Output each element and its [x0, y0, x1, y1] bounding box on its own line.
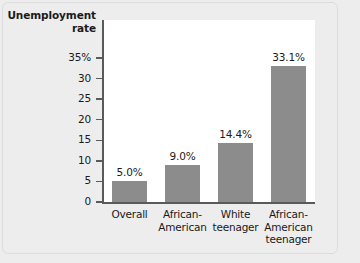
y-tick-label: 10: [31, 154, 91, 166]
bar: [112, 181, 147, 202]
y-axis-title: Unemployment rate: [4, 9, 96, 34]
y-tick-mark: [96, 181, 103, 183]
y-tick-label: 35%: [31, 51, 91, 63]
y-tick-mark: [96, 119, 103, 121]
bar-value-label: 33.1%: [259, 51, 319, 63]
y-tick-label: 30: [31, 72, 91, 84]
y-tick-mark: [96, 78, 103, 80]
y-tick-label: 25: [31, 92, 91, 104]
bar-value-label: 5.0%: [100, 166, 160, 178]
bar-value-label: 9.0%: [153, 150, 213, 162]
x-category-label: African- American teenager: [259, 208, 319, 246]
x-category-label: Overall: [100, 208, 160, 221]
y-tick-mark: [96, 140, 103, 142]
y-tick-label: 0: [31, 195, 91, 207]
y-tick-label: 20: [31, 113, 91, 125]
x-category-label: African- American: [153, 208, 213, 233]
y-tick-mark: [96, 160, 103, 162]
bar: [271, 66, 306, 202]
bar-value-label: 14.4%: [206, 128, 266, 140]
x-category-label: White teenager: [206, 208, 266, 233]
y-tick-mark: [96, 201, 103, 203]
y-tick-label: 15: [31, 133, 91, 145]
bar-chart-figure: Unemployment rate 05101520253035% 5.0%Ov…: [0, 0, 360, 263]
bar: [218, 143, 253, 202]
y-tick-mark: [96, 98, 103, 100]
y-tick-label: 5: [31, 174, 91, 186]
y-tick-mark: [96, 57, 103, 59]
bar: [165, 165, 200, 202]
x-axis-line: [102, 202, 315, 204]
